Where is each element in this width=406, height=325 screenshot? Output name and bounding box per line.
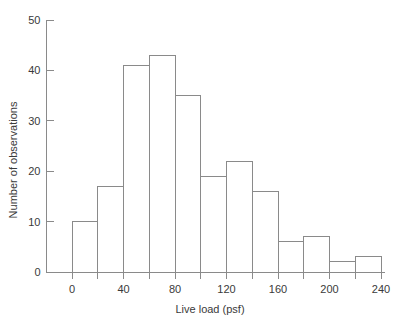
x-axis-ticks (72, 273, 381, 280)
x-tick-label: 120 (217, 283, 235, 295)
y-tick-label: 10 (28, 216, 40, 228)
histogram-figure: 04080120160200240 01020304050 Live load … (0, 0, 406, 325)
histogram-bar (227, 161, 253, 272)
histogram-plot: 04080120160200240 01020304050 Live load … (0, 0, 406, 325)
histogram-bar (355, 257, 381, 272)
y-axis-ticks (47, 20, 54, 272)
histogram-bar (201, 176, 227, 272)
bars-group (72, 55, 381, 272)
histogram-bar (252, 191, 278, 272)
y-axis-tick-labels: 01020304050 (28, 14, 40, 278)
histogram-bar (330, 262, 356, 272)
histogram-bar (124, 65, 150, 272)
histogram-bar (304, 237, 330, 272)
y-tick-label: 30 (28, 115, 40, 127)
y-tick-label: 40 (28, 64, 40, 76)
x-axis-title: Live load (psf) (175, 303, 244, 315)
x-tick-label: 0 (69, 283, 75, 295)
x-tick-label: 200 (320, 283, 338, 295)
histogram-bar (72, 222, 98, 272)
y-tick-label: 20 (28, 165, 40, 177)
histogram-bar (98, 186, 124, 272)
x-tick-label: 80 (169, 283, 181, 295)
x-tick-label: 240 (372, 283, 390, 295)
y-tick-label: 50 (28, 14, 40, 26)
x-axis-tick-labels: 04080120160200240 (69, 283, 390, 295)
x-tick-label: 160 (269, 283, 287, 295)
x-tick-label: 40 (117, 283, 129, 295)
histogram-bar (149, 55, 175, 272)
y-axis-title: Number of observations (7, 101, 19, 218)
y-tick-label: 0 (34, 266, 40, 278)
histogram-bar (175, 96, 201, 272)
histogram-bar (278, 242, 304, 272)
